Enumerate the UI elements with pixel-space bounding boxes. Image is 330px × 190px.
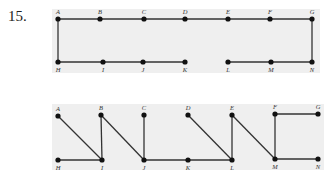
node-label-H: H [55, 164, 61, 171]
node-F [272, 111, 277, 116]
node-K [185, 157, 190, 162]
node-I [99, 157, 104, 162]
bottom-graph: ABCDEFGHIJKLMN [52, 103, 324, 171]
node-label-A: A [55, 105, 60, 112]
top-graph: ABCDEFGHIJKLMN [52, 8, 320, 73]
node-label-M: M [267, 66, 274, 73]
node-label-K: K [182, 66, 188, 73]
node-label-B: B [98, 8, 102, 15]
node-label-N: N [315, 163, 321, 170]
node-label-G: G [310, 8, 315, 15]
node-label-K: K [185, 164, 191, 171]
node-label-D: D [185, 104, 191, 111]
node-label-M: M [271, 163, 278, 170]
node-M [268, 59, 273, 64]
node-label-C: C [142, 8, 147, 15]
node-label-E: E [225, 8, 230, 15]
node-D [185, 112, 190, 117]
node-N [309, 59, 314, 64]
node-A [55, 16, 60, 21]
node-G [315, 111, 320, 116]
node-M [272, 156, 277, 161]
node-label-L: L [225, 66, 230, 73]
node-K [182, 59, 187, 64]
node-N [315, 156, 320, 161]
node-J [140, 59, 145, 64]
node-H [55, 157, 60, 162]
node-F [267, 16, 272, 21]
node-H [55, 59, 60, 64]
node-label-H: H [55, 66, 61, 73]
node-label-L: L [229, 164, 234, 171]
node-C [141, 112, 146, 117]
node-A [55, 113, 60, 118]
node-label-G: G [316, 103, 321, 110]
node-label-A: A [55, 8, 60, 15]
node-E [229, 112, 234, 117]
node-D [182, 16, 187, 21]
node-label-C: C [142, 104, 147, 111]
graph-diagrams: ABCDEFGHIJKLMNABCDEFGHIJKLMN [0, 0, 330, 190]
node-G [309, 16, 314, 21]
node-C [141, 16, 146, 21]
node-label-E: E [229, 104, 234, 111]
node-L [225, 59, 230, 64]
node-J [141, 157, 146, 162]
node-E [225, 16, 230, 21]
node-B [98, 112, 103, 117]
node-label-B: B [99, 104, 103, 111]
node-label-N: N [309, 66, 315, 73]
node-B [97, 16, 102, 21]
node-label-D: D [182, 8, 188, 15]
node-L [229, 157, 234, 162]
node-I [100, 59, 105, 64]
